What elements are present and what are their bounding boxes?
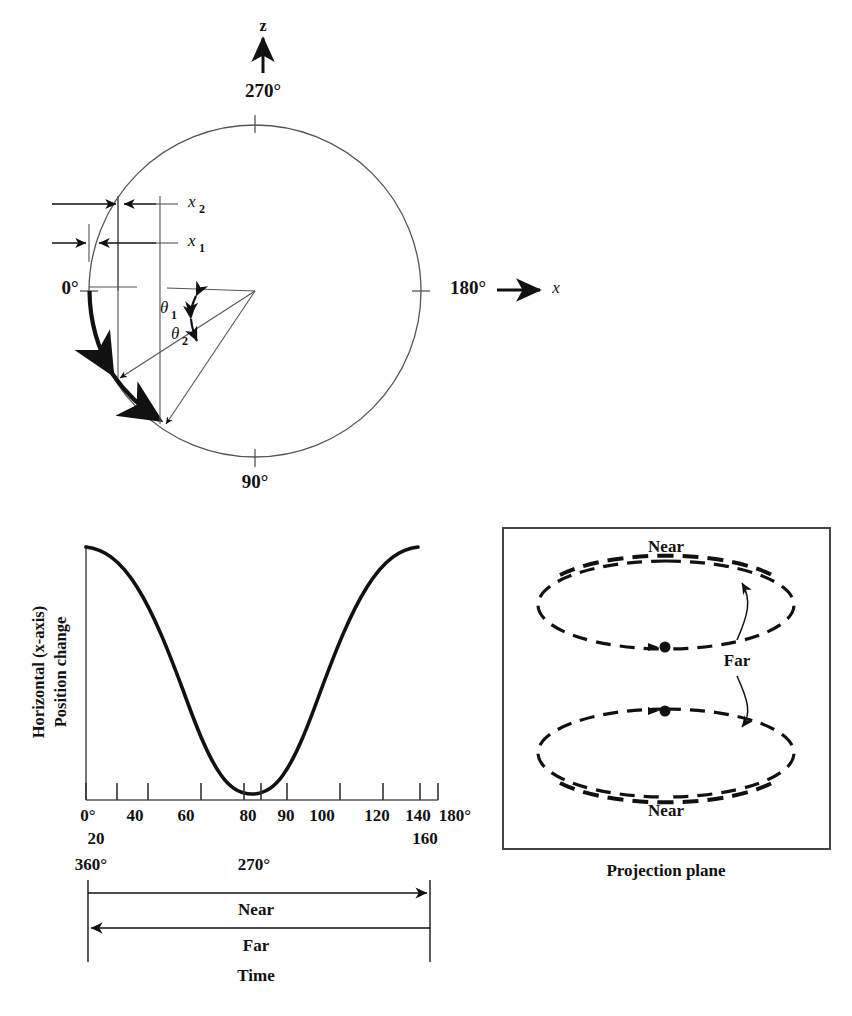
graph-tick-labels-row1: 0° 40 60 80 90 100 120 140 180° <box>80 806 471 825</box>
theta2-label: θ <box>171 324 179 343</box>
projection-ellipse-bottom-left-half <box>538 709 666 797</box>
range-label-270: 270° <box>238 855 270 874</box>
arc-segment-theta2 <box>113 374 161 420</box>
dimension-label-x2: x <box>187 192 196 211</box>
position-curve <box>86 547 418 794</box>
projection-near-bottom-label: Near <box>648 801 684 820</box>
figure-root: z 270° 90° 0° 180° x x 2 <box>0 0 852 1016</box>
tick-label-80: 80 <box>240 806 257 825</box>
tick-label-120: 120 <box>364 806 390 825</box>
projection-dot-bottom <box>660 706 671 717</box>
tick-label-40: 40 <box>127 806 144 825</box>
graph-tick-labels-row2: 20 160 <box>88 829 438 848</box>
phase-circle-group: z 270° 90° 0° 180° x x 2 <box>52 17 560 493</box>
graph-ylabel-line2: Position change <box>51 617 70 727</box>
projection-plane-caption: Projection plane <box>606 861 726 880</box>
position-graph-group: Horizontal (x-axis) Position change 0° 4… <box>29 545 471 985</box>
graph-ylabel-line1: Horizontal (x-axis) <box>29 606 48 738</box>
angle-label-90: 90° <box>242 471 269 492</box>
angle-label-270: 270° <box>245 80 281 101</box>
radius-theta2 <box>166 291 255 424</box>
x-axis-label: x <box>551 278 560 297</box>
projection-far-label: Far <box>724 651 751 670</box>
theta2-arc <box>191 319 197 341</box>
far-leader-up <box>737 583 748 640</box>
theta1-label-sub: 1 <box>171 308 177 322</box>
projection-plane-group: Near Far Near Projection plane <box>503 528 830 880</box>
dimension-label-x1-sub: 1 <box>199 241 205 255</box>
tick-label-180: 180° <box>439 806 471 825</box>
far-label: Far <box>243 936 270 955</box>
projection-ellipse-top-left-half <box>538 561 666 649</box>
dimension-label-x2-sub: 2 <box>199 202 205 216</box>
far-leader-down <box>737 676 748 727</box>
tick-label-60: 60 <box>178 806 195 825</box>
tick-label-140: 140 <box>405 806 431 825</box>
projection-ellipse-bottom-near-rim <box>560 783 772 802</box>
z-axis-label: z <box>259 17 266 34</box>
projection-ellipse-top-right-half <box>666 561 794 649</box>
figure-canvas: z 270° 90° 0° 180° x x 2 <box>0 0 852 1016</box>
projection-ellipse-bottom-right-half <box>666 709 794 797</box>
angle-label-180: 180° <box>450 277 486 298</box>
projection-ellipse-top-near-rim <box>560 556 772 575</box>
tick-label-90: 90 <box>278 806 295 825</box>
graph-xlabel-time: Time <box>237 966 275 985</box>
arc-segment-theta1 <box>90 291 113 374</box>
theta1-arc <box>190 296 196 316</box>
tick-label-0: 0° <box>80 806 95 825</box>
angle-label-0: 0° <box>61 277 78 298</box>
tick-label-100: 100 <box>309 806 335 825</box>
projection-near-top-label: Near <box>648 537 684 556</box>
tick-label-160: 160 <box>412 829 438 848</box>
dimension-label-x1: x <box>187 231 196 250</box>
near-label: Near <box>238 900 274 919</box>
range-label-360: 360° <box>75 855 107 874</box>
radius-baseline <box>167 288 255 291</box>
theta1-label: θ <box>160 298 168 317</box>
projection-dot-top <box>660 642 671 653</box>
theta2-label-sub: 2 <box>182 334 188 348</box>
tick-label-20: 20 <box>88 829 105 848</box>
